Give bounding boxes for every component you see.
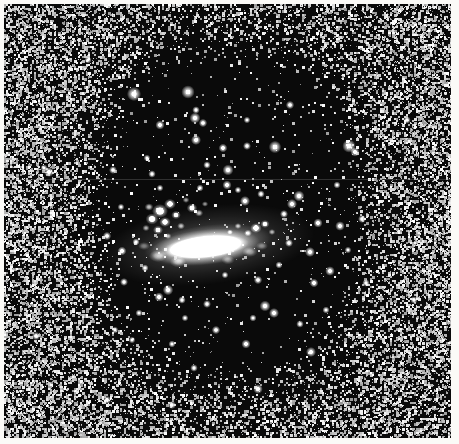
sky-field bbox=[4, 4, 451, 438]
astronomical-plate-figure bbox=[0, 0, 459, 444]
paper-margin-right bbox=[451, 0, 459, 444]
halftone-noise-halo bbox=[4, 4, 451, 438]
paper-margin-bottom bbox=[0, 438, 459, 444]
